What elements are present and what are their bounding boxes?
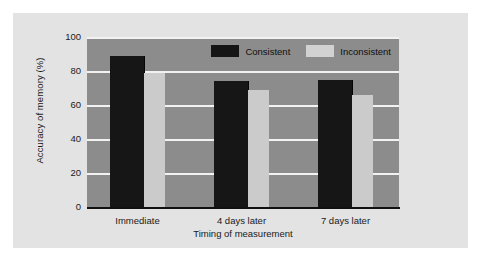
- bar-consistent: [110, 56, 145, 207]
- y-tick-label: 0: [53, 202, 81, 212]
- x-tick-label: 4 days later: [192, 215, 292, 226]
- legend-label-inconsistent: Inconsistent: [340, 46, 391, 57]
- plot-area: Consistent Inconsistent: [87, 37, 399, 207]
- y-tick-label: 60: [53, 100, 81, 110]
- bar-consistent: [214, 81, 249, 207]
- x-tick-label: Immediate: [88, 215, 188, 226]
- chart-legend: Consistent Inconsistent: [211, 45, 391, 57]
- bar-inconsistent: [352, 95, 373, 207]
- y-tick-label: 100: [53, 32, 81, 42]
- y-tick-label: 80: [53, 66, 81, 76]
- black-swatch-icon: [211, 45, 239, 57]
- legend-label-consistent: Consistent: [245, 46, 290, 57]
- bar-consistent: [318, 80, 353, 208]
- bar-inconsistent: [144, 73, 165, 207]
- gray-swatch-icon: [306, 45, 334, 57]
- x-axis-line: [87, 207, 400, 209]
- legend-item-inconsistent: Inconsistent: [306, 45, 391, 57]
- bar-group: [87, 37, 191, 207]
- legend-item-consistent: Consistent: [211, 45, 290, 57]
- y-axis-label: Accuracy of memory (%): [34, 36, 45, 186]
- bar-group: [295, 37, 399, 207]
- x-axis-label: Timing of measurement: [87, 228, 399, 239]
- bar-inconsistent: [248, 90, 269, 207]
- y-tick-label: 40: [53, 134, 81, 144]
- chart-figure: Accuracy of memory (%) 100806040200 Cons…: [13, 13, 468, 248]
- bar-group: [191, 37, 295, 207]
- x-tick-label: 7 days later: [296, 215, 396, 226]
- y-tick-label: 20: [53, 168, 81, 178]
